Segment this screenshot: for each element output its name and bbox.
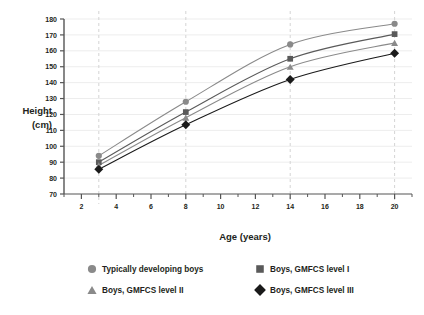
y-tick-label: 130 (45, 95, 57, 102)
x-tick-label: 12 (252, 203, 260, 210)
data-point-marker-1 (287, 56, 293, 62)
legend-item-label: Boys, GMFCS level I (270, 265, 349, 274)
data-point-marker-0 (392, 21, 398, 27)
x-tick-label: 20 (391, 203, 399, 210)
data-point-marker-1 (392, 31, 398, 37)
chart-canvas: 708090100110120130140150160170180 246810… (0, 0, 424, 315)
x-tick-label: 14 (286, 203, 294, 210)
y-axis-title-line1: Height (22, 105, 52, 116)
x-tick-label: 8 (184, 203, 188, 210)
data-point-marker-0 (287, 41, 293, 47)
data-point-marker-0 (183, 99, 189, 105)
y-axis-title-line2: (cm) (32, 119, 52, 130)
data-point-marker-0 (96, 153, 102, 159)
y-tick-label: 80 (49, 175, 57, 182)
x-tick-label: 18 (356, 203, 364, 210)
y-tick-label: 100 (45, 143, 57, 150)
y-tick-label: 180 (45, 16, 57, 23)
data-point-marker-legend-0 (88, 265, 96, 273)
x-axis-title: Age (years) (219, 231, 271, 242)
x-tick-label: 10 (217, 203, 225, 210)
y-tick-label: 160 (45, 47, 57, 54)
data-point-marker-1 (183, 109, 189, 115)
data-point-marker-legend-1 (256, 265, 264, 273)
y-tick-label: 140 (45, 79, 57, 86)
y-tick-label: 150 (45, 63, 57, 70)
x-tick-label: 6 (149, 203, 153, 210)
legend-item[interactable]: Boys, GMFCS level I (256, 265, 349, 274)
x-tick-label: 4 (114, 203, 118, 210)
legend-item-label: Typically developing boys (102, 265, 204, 274)
y-tick-label: 90 (49, 159, 57, 166)
legend-item-label: Boys, GMFCS level III (270, 286, 354, 295)
legend-item[interactable]: Boys, GMFCS level III (254, 284, 354, 296)
growth-chart-figure: 708090100110120130140150160170180 246810… (0, 0, 424, 315)
y-tick-label: 170 (45, 32, 57, 39)
y-tick-label: 70 (49, 191, 57, 198)
legend-item[interactable]: Typically developing boys (88, 265, 204, 274)
legend-item-label: Boys, GMFCS level II (102, 286, 183, 295)
legend-item[interactable]: Boys, GMFCS level II (87, 286, 183, 295)
x-tick-label: 16 (321, 203, 329, 210)
x-tick-label: 2 (79, 203, 83, 210)
